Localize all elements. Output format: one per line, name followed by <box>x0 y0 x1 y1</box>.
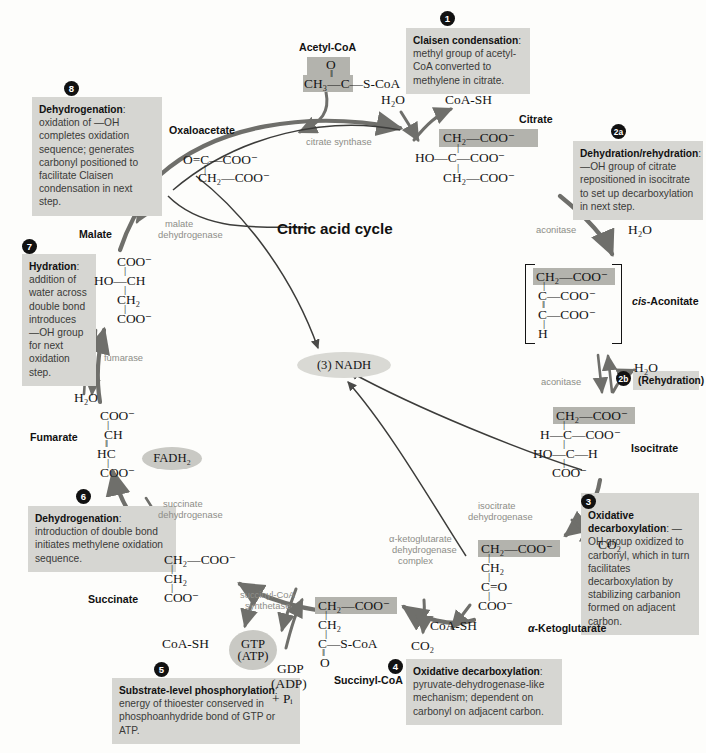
label-acetyl-coa: Acetyl-CoA <box>299 41 356 53</box>
structure-cis-aconitate-4: H <box>538 326 548 341</box>
structure-citrate-2: HO—C—COO⁻ <box>415 150 505 165</box>
structure-succinate-1: CH₂—COO⁻ <box>164 552 236 567</box>
structure-malate-3: CH₂ <box>117 292 140 307</box>
label-fumarate: Fumarate <box>30 431 78 443</box>
atp-label: (ATP) <box>238 650 269 662</box>
note-3-lead: Oxidative decarboxylation <box>588 510 666 534</box>
enzyme-akg-complex-l3: complex <box>398 555 433 567</box>
structure-cis-aconitate-3: C—COO⁻ <box>538 307 596 322</box>
structure-oxaloacetate-1: O=C—COO⁻ <box>183 152 258 167</box>
water-step2a: H₂O <box>628 222 652 237</box>
step-bullet-2a: 2a <box>611 124 626 139</box>
structure-succinate-2: CH₂ <box>164 571 187 586</box>
citric-acid-cycle-diagram: 1 Claisen condensation: methyl group of … <box>0 0 706 753</box>
enzyme-akg-complex-l2: dehydrogenase <box>392 544 457 556</box>
water-step7: H₂O <box>74 390 98 405</box>
step-bullet-8: 8 <box>64 81 79 96</box>
structure-fumarate-1: COO⁻ <box>100 408 135 423</box>
structure-succoa-1: CH₂—COO⁻ <box>318 598 390 613</box>
enzyme-succinyl-coa-synthetase-l2: synthetase <box>245 600 290 612</box>
page-title: Citric acid cycle <box>277 220 393 237</box>
structure-akg-4: COO⁻ <box>478 598 513 613</box>
structure-succoa-2: CH₂ <box>318 617 341 632</box>
note-2a: Dehydration/rehydration: —OH group of ci… <box>573 141 703 220</box>
coash-step1: CoA-SH <box>445 92 492 107</box>
enzyme-citrate-synthase: citrate synthase <box>306 136 372 148</box>
note-2a-lead: Dehydration/rehydration <box>580 148 698 159</box>
structure-citrate-1: CH₂—COO⁻ <box>443 130 515 145</box>
structure-fumarate-4: COO⁻ <box>100 465 135 480</box>
structure-isocitrate-4: COO⁻ <box>552 465 587 480</box>
structure-malate-1: COO⁻ <box>117 254 152 269</box>
note-7: Hydration: addition of water across doub… <box>22 254 96 386</box>
label-succinate: Succinate <box>88 593 138 605</box>
note-6-lead: Dehydrogenation <box>35 513 119 524</box>
structure-malate-4: COO⁻ <box>117 311 152 326</box>
label-ketoglutarate-suffix: -Ketoglutarate <box>535 622 607 634</box>
note-1: Claisen condensation: methyl group of ac… <box>406 28 530 94</box>
co2-step3: CO₂ <box>598 537 621 552</box>
note-8-body: : oxidation of —OH completes oxidation s… <box>39 104 138 207</box>
step-bullet-3-top: 3 <box>581 494 596 509</box>
nadh-pill: (3) NADH <box>297 352 391 378</box>
label-cis-prefix: cis <box>632 295 647 307</box>
enzyme-isocitrate-dehydrogenase-l2: dehydrogenase <box>468 511 533 523</box>
label-malate: Malate <box>79 228 112 240</box>
note-4-lead: Oxidative decarboxylation <box>413 666 540 677</box>
enzyme-malate-dehydrogenase-l1: malate <box>165 218 193 230</box>
structure-acetyl-coa-chain: CH₃—C—S-CoA <box>304 76 400 91</box>
coash-step5: CoA-SH <box>162 636 209 651</box>
step-bullet-5: 5 <box>154 662 169 677</box>
fadh2-pill: FADH₂ <box>142 447 202 470</box>
label-alpha-prefix: α <box>528 622 535 634</box>
pi-label: + Pᵢ <box>272 691 293 706</box>
label-cis-aconitate: cis-Aconitate <box>632 295 699 307</box>
label-alpha-ketoglutarate: α-Ketoglutarate <box>528 622 606 634</box>
note-1-lead: Claisen condensation <box>413 35 518 46</box>
note-2b-lead: (Rehydration) <box>638 375 704 386</box>
structure-succoa-3: C—S-CoA <box>318 636 378 651</box>
coash-step4: CoA-SH <box>430 618 477 633</box>
structure-succinate-3: COO⁻ <box>164 590 199 605</box>
structure-akg-3: C=O <box>481 579 507 594</box>
step-bullet-4: 4 <box>388 659 403 674</box>
label-aconitate-suffix: -Aconitate <box>647 295 699 307</box>
structure-cis-aconitate-2: C—COO⁻ <box>538 288 596 303</box>
structure-malate-2: HO—CH <box>94 273 145 288</box>
enzyme-isocitrate-dehydrogenase-l1: isocitrate <box>478 500 516 512</box>
label-citrate: Citrate <box>519 113 553 125</box>
note-7-body: : addition of water across double bond i… <box>29 261 87 378</box>
gtp-atp-pill: GTP (ATP) <box>229 630 277 670</box>
structure-isocitrate-2: H—C—COO⁻ <box>540 427 621 442</box>
note-3: Oxidative decarboxylation: —OH group oxi… <box>581 493 699 635</box>
structure-akg-1: CH₂—COO⁻ <box>481 541 553 556</box>
water-step2b: H₂O <box>634 360 658 375</box>
enzyme-akg-complex-l1: α-ketoglutarate <box>389 533 452 545</box>
enzyme-fumarase: fumarase <box>104 352 143 364</box>
label-succinyl-coa: Succinyl-CoA <box>334 674 403 686</box>
co2-step4: CO₂ <box>411 638 434 653</box>
structure-citrate-3: CH₂—COO⁻ <box>443 170 515 185</box>
structure-akg-2: CH₂ <box>481 560 504 575</box>
enzyme-aconitase-2: aconitase <box>541 376 581 388</box>
enzyme-aconitase-1: aconitase <box>536 224 576 236</box>
note-4: Oxidative decarboxylation: pyruvate-dehy… <box>406 659 562 725</box>
gdp-label: GDP <box>277 661 304 676</box>
structure-oxaloacetate-2: CH₂—COO⁻ <box>198 170 270 185</box>
step-bullet-2b: 2b <box>616 371 631 386</box>
label-isocitrate: Isocitrate <box>631 442 678 454</box>
enzyme-malate-dehydrogenase-l2: dehydrogenase <box>158 229 223 241</box>
note-8: Dehydrogenation: oxidation of —OH comple… <box>32 97 162 216</box>
note-5-lead: Substrate-level phosphorylation <box>119 685 275 696</box>
enzyme-succinate-dehydrogenase-l2: dehydrogenase <box>158 509 223 521</box>
note-6: Dehydrogenation: introduction of double … <box>28 506 176 572</box>
water-step1: H₂O <box>381 92 405 107</box>
step-bullet-1: 1 <box>440 11 455 26</box>
adp-label: (ADP) <box>271 676 307 691</box>
structure-cis-aconitate-1: CH₂—COO⁻ <box>536 269 608 284</box>
step-bullet-6: 6 <box>76 489 91 504</box>
step-bullet-7: 7 <box>22 239 37 254</box>
enzyme-succinyl-coa-synthetase-l1: succinyl-CoA <box>240 589 295 601</box>
enzyme-succinate-dehydrogenase-l1: succinate <box>163 498 203 510</box>
note-7-lead: Hydration <box>29 261 77 272</box>
